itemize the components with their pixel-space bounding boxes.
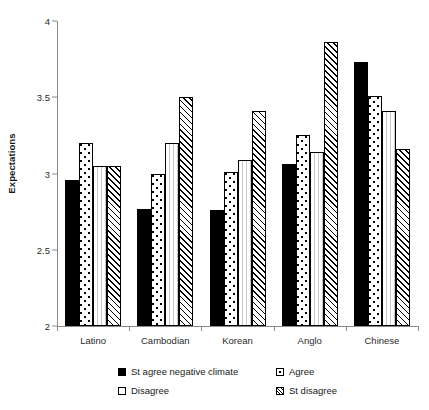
- bar: [296, 135, 310, 326]
- bar: [354, 62, 368, 326]
- bar: [79, 143, 93, 326]
- legend-item: Agree: [276, 362, 368, 381]
- bar: [324, 42, 338, 326]
- bar: [151, 174, 165, 327]
- legend-item: St disagree: [276, 381, 368, 400]
- y-axis-tick-label: 2: [45, 321, 50, 332]
- y-axis-title: Expectations: [2, 0, 20, 326]
- x-axis-tick: [418, 326, 419, 331]
- legend-item: Disagree: [118, 381, 276, 400]
- y-axis-tick-label: 2.5: [37, 244, 50, 255]
- y-axis-tick-label: 3.5: [37, 92, 50, 103]
- hatched-square-icon: [276, 387, 284, 395]
- y-axis-tick-label: 3: [45, 168, 50, 179]
- bar: [238, 160, 252, 326]
- bar-group: [346, 21, 418, 326]
- x-axis-line: [57, 326, 419, 327]
- x-axis-category-label: Cambodian: [129, 331, 201, 351]
- y-axis-tick-labels: 22.533.54: [20, 0, 53, 340]
- plot-bars: [57, 21, 418, 326]
- legend-item-label: St agree negative climate: [131, 366, 238, 377]
- bar: [65, 180, 79, 326]
- y-axis-tick-label: 4: [45, 16, 50, 27]
- bar: [368, 96, 382, 326]
- legend-item-label: Disagree: [131, 385, 169, 396]
- x-axis-category-labels: LatinoCambodianKoreanAngloChinese: [57, 331, 418, 351]
- bar: [107, 166, 121, 326]
- x-axis-category-label: Chinese: [346, 331, 418, 351]
- x-axis-category-label: Anglo: [274, 331, 346, 351]
- bar: [210, 210, 224, 326]
- white-square-icon: [118, 387, 126, 395]
- bar: [382, 111, 396, 326]
- bar: [282, 164, 296, 326]
- chart-legend: St agree negative climateAgreeDisagreeSt…: [118, 362, 368, 400]
- bar-chart: Expectations 22.533.54 LatinoCambodianKo…: [0, 0, 429, 410]
- bar-group: [57, 21, 129, 326]
- bar: [179, 97, 193, 326]
- legend-item-label: St disagree: [289, 385, 337, 396]
- bar: [137, 209, 151, 326]
- bar: [93, 166, 107, 326]
- bar: [224, 172, 238, 326]
- bar: [252, 111, 266, 326]
- bar: [396, 149, 410, 326]
- solid-black-square-icon: [118, 368, 126, 376]
- bar: [310, 152, 324, 326]
- bar: [165, 143, 179, 326]
- bar-group: [274, 21, 346, 326]
- y-axis-title-text: Expectations: [6, 133, 17, 193]
- legend-item-label: Agree: [289, 366, 314, 377]
- bar-group: [129, 21, 201, 326]
- x-axis-category-label: Latino: [57, 331, 129, 351]
- dotted-square-icon: [276, 368, 284, 376]
- bar-group: [201, 21, 273, 326]
- legend-item: St agree negative climate: [118, 362, 276, 381]
- x-axis-category-label: Korean: [201, 331, 273, 351]
